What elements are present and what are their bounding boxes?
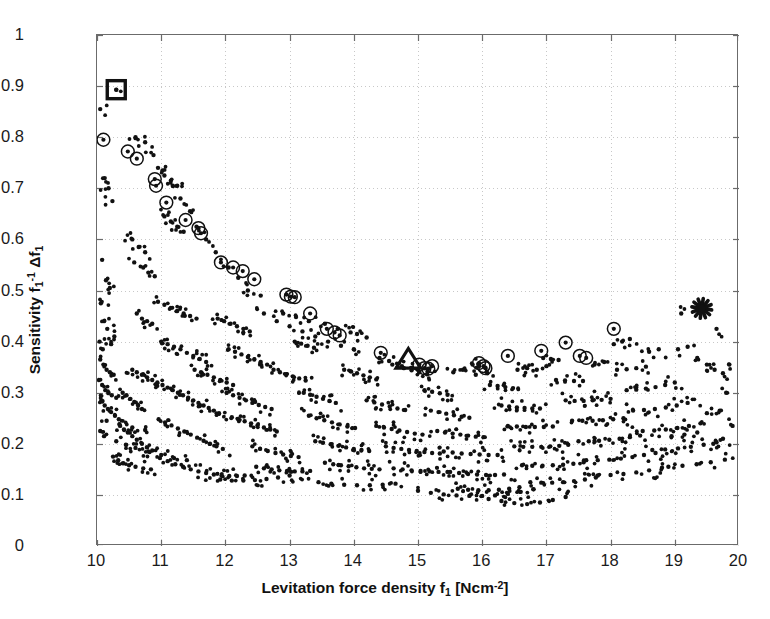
figure-scatter-plot: 00.10.20.30.40.50.60.70.80.91 1011121314… [0, 0, 770, 619]
x-tick-19: 19 [644, 551, 704, 570]
y-axis-title-text: Sensitivity f [26, 287, 43, 374]
x-axis-unit-open: [Ncm [451, 579, 494, 596]
x-tick-18: 18 [580, 551, 640, 570]
x-tick-20: 20 [708, 551, 768, 570]
x-tick-14: 14 [323, 551, 383, 570]
scatter-canvas [97, 35, 739, 546]
x-tick-15: 15 [387, 551, 447, 570]
y-tick-0.1: 0.1 [0, 484, 24, 503]
x-axis-unit-exponent: -2 [494, 579, 503, 591]
y-tick-0.4: 0.4 [0, 331, 24, 350]
x-axis-unit-close: ] [503, 579, 508, 596]
x-tick-10: 10 [66, 551, 126, 570]
y-axis-delta-sub: 1 [33, 245, 45, 251]
y-tick-0.5: 0.5 [0, 280, 24, 299]
y-tick-0.7: 0.7 [0, 178, 24, 197]
y-axis-delta: Δf [26, 251, 43, 272]
y-tick-0.3: 0.3 [0, 382, 24, 401]
x-axis-title: Levitation force density f1 [Ncm-2] [0, 579, 770, 598]
y-tick-0.8: 0.8 [0, 127, 24, 146]
x-tick-17: 17 [515, 551, 575, 570]
y-axis-title: Sensitivity f1-1 Δf1 [25, 180, 44, 440]
y-tick-0.6: 0.6 [0, 229, 24, 248]
x-tick-12: 12 [194, 551, 254, 570]
x-tick-11: 11 [130, 551, 190, 570]
y-axis-title-sub: 1 [33, 281, 45, 287]
x-tick-16: 16 [451, 551, 511, 570]
x-axis-title-text: Levitation force density f [262, 579, 445, 596]
y-tick-0.2: 0.2 [0, 433, 24, 452]
y-tick-0.9: 0.9 [0, 76, 24, 95]
x-tick-13: 13 [259, 551, 319, 570]
y-tick-1: 1 [0, 25, 24, 44]
y-axis-title-sup: -1 [25, 272, 37, 281]
plot-area [96, 34, 738, 545]
y-tick-0: 0 [0, 536, 24, 555]
